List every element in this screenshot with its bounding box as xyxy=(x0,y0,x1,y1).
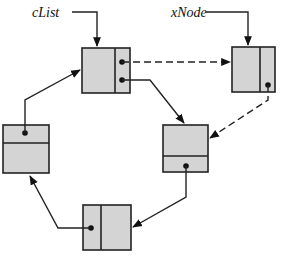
node-right xyxy=(163,125,208,172)
xnode-pointer-arrow xyxy=(206,12,248,45)
edge-left-to-first xyxy=(25,70,80,133)
edge-first-to-right xyxy=(122,80,184,123)
edge-right-to-bottom xyxy=(133,166,186,227)
edge-bottom-to-left xyxy=(30,176,91,228)
node-first-box xyxy=(82,48,130,93)
clist-pointer-arrow xyxy=(72,12,97,46)
node-left xyxy=(3,125,49,173)
xnode-label: xNode xyxy=(170,5,207,20)
edge-inserted-to-right xyxy=(210,85,268,138)
linked-list-diagram: cList xNode xyxy=(0,0,283,266)
node-first xyxy=(82,48,130,93)
clist-label: cList xyxy=(32,5,60,20)
